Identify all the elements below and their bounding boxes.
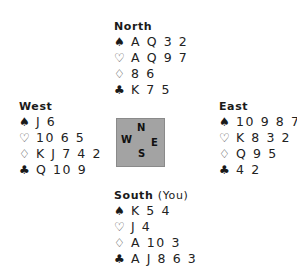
north-hand: North ♠A Q 3 2 ♡A Q 9 7 ♢8 6 ♣K 7 5	[114, 19, 188, 98]
south-hand: South (You) ♠K 5 4 ♡J 4 ♢A 10 3 ♣A J 8 6…	[114, 188, 197, 267]
heart-icon: ♡	[219, 130, 236, 146]
east-spades-cards: 10 9 8 7	[236, 114, 297, 129]
east-hearts-cards: K 8 3 2	[236, 130, 291, 145]
west-hand: West ♠J 6 ♡10 6 5 ♢K J 7 4 2 ♣Q 10 9	[19, 99, 102, 178]
diamond-icon: ♢	[19, 146, 36, 162]
east-diamonds-cards: Q 9 5	[236, 146, 278, 161]
south-spades: ♠K 5 4	[114, 203, 197, 219]
heart-icon: ♡	[19, 130, 36, 146]
club-icon: ♣	[114, 82, 131, 98]
spade-icon: ♠	[114, 34, 131, 50]
compass-box: N W E S	[116, 118, 165, 167]
south-clubs-cards: A J 8 6 3	[131, 251, 197, 266]
north-spades: ♠A Q 3 2	[114, 34, 188, 50]
north-hearts-cards: A Q 9 7	[131, 50, 188, 65]
south-label: South (You)	[114, 188, 197, 203]
west-clubs-cards: Q 10 9	[36, 162, 87, 177]
spade-icon: ♠	[114, 203, 131, 219]
club-icon: ♣	[114, 251, 131, 267]
north-hearts: ♡A Q 9 7	[114, 50, 188, 66]
east-label: East	[219, 99, 297, 114]
heart-icon: ♡	[114, 219, 131, 235]
diamond-icon: ♢	[114, 235, 131, 251]
west-spades-cards: J 6	[36, 114, 56, 129]
west-diamonds-cards: K J 7 4 2	[36, 146, 102, 161]
spade-icon: ♠	[19, 114, 36, 130]
diamond-icon: ♢	[219, 146, 236, 162]
west-clubs: ♣Q 10 9	[19, 162, 102, 178]
west-hearts-cards: 10 6 5	[36, 130, 85, 145]
south-spades-cards: K 5 4	[131, 203, 171, 218]
east-hand: East ♠10 9 8 7 ♡K 8 3 2 ♢Q 9 5 ♣4 2	[219, 99, 297, 178]
club-icon: ♣	[219, 162, 236, 178]
south-you-tag: (You)	[158, 189, 189, 202]
south-diamonds-cards: A 10 3	[131, 235, 181, 250]
north-clubs-cards: K 7 5	[131, 82, 171, 97]
compass-west: W	[121, 134, 132, 145]
east-spades: ♠10 9 8 7	[219, 114, 297, 130]
east-hearts: ♡K 8 3 2	[219, 130, 297, 146]
north-clubs: ♣K 7 5	[114, 82, 188, 98]
compass-east: E	[151, 137, 158, 148]
east-clubs-cards: 4 2	[236, 162, 261, 177]
north-diamonds: ♢8 6	[114, 66, 188, 82]
west-spades: ♠J 6	[19, 114, 102, 130]
east-clubs: ♣4 2	[219, 162, 297, 178]
spade-icon: ♠	[219, 114, 236, 130]
south-hearts: ♡J 4	[114, 219, 197, 235]
diamond-icon: ♢	[114, 66, 131, 82]
west-hearts: ♡10 6 5	[19, 130, 102, 146]
compass-south: S	[138, 148, 145, 159]
heart-icon: ♡	[114, 50, 131, 66]
north-label: North	[114, 19, 188, 34]
north-spades-cards: A Q 3 2	[131, 34, 188, 49]
south-diamonds: ♢A 10 3	[114, 235, 197, 251]
compass-north: N	[137, 122, 145, 133]
west-diamonds: ♢K J 7 4 2	[19, 146, 102, 162]
north-diamonds-cards: 8 6	[131, 66, 156, 81]
west-label: West	[19, 99, 102, 114]
east-diamonds: ♢Q 9 5	[219, 146, 297, 162]
south-hearts-cards: J 4	[131, 219, 151, 234]
south-clubs: ♣A J 8 6 3	[114, 251, 197, 267]
south-label-text: South	[114, 189, 153, 202]
club-icon: ♣	[19, 162, 36, 178]
